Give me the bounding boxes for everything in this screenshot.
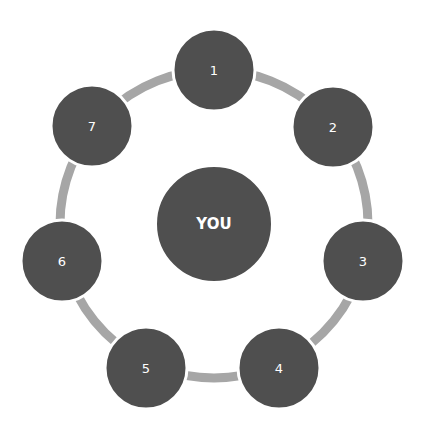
cycle-diagram: YOU 1 2 3 4 5 6 7 — [0, 0, 424, 433]
node-label: 1 — [210, 63, 218, 78]
node-5: 5 — [105, 327, 187, 409]
node-label: 2 — [329, 120, 337, 135]
node-label: 6 — [58, 254, 66, 269]
node-label: 3 — [359, 254, 367, 269]
node-6: 6 — [21, 220, 103, 302]
node-2: 2 — [292, 86, 374, 168]
center-node: YOU — [156, 166, 272, 282]
center-label: YOU — [195, 215, 231, 233]
node-4: 4 — [238, 327, 320, 409]
node-label: 5 — [142, 361, 150, 376]
node-label: 7 — [88, 119, 96, 134]
node-label: 4 — [275, 361, 283, 376]
node-3: 3 — [322, 220, 404, 302]
node-1: 1 — [173, 29, 255, 111]
node-7: 7 — [51, 85, 133, 167]
